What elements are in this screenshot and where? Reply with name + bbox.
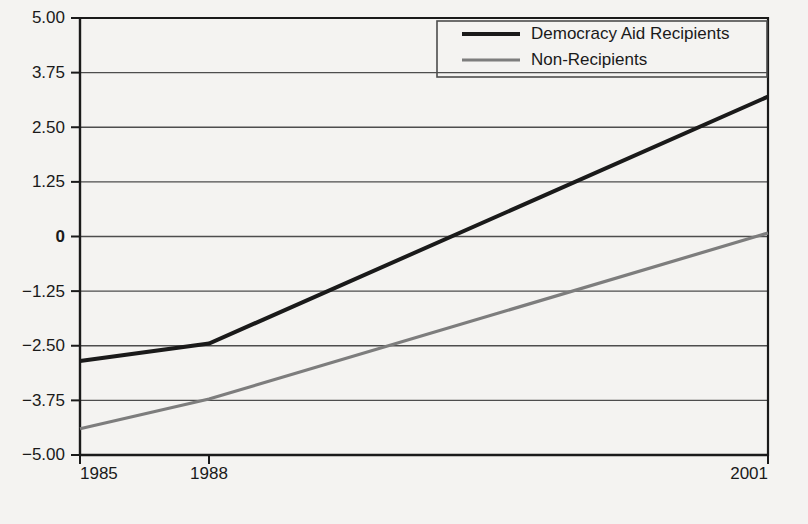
chart-background xyxy=(0,0,808,524)
x-axis-tick-label: 1988 xyxy=(190,464,228,483)
x-axis-tick-label: 2001 xyxy=(730,464,768,483)
chart-container: 5.003.752.501.250−1.25−2.50−3.75−5.00 19… xyxy=(0,0,808,524)
y-axis-tick-label: −1.25 xyxy=(22,282,65,301)
y-axis-tick-label: −5.00 xyxy=(22,445,65,464)
legend-label: Non-Recipients xyxy=(531,50,647,69)
y-axis-tick-label: 0 xyxy=(56,227,65,246)
y-axis-tick-label: 3.75 xyxy=(32,63,65,82)
line-chart: 5.003.752.501.250−1.25−2.50−3.75−5.00 19… xyxy=(0,0,808,524)
legend-label: Democracy Aid Recipients xyxy=(531,24,729,43)
y-axis-tick-label: 1.25 xyxy=(32,172,65,191)
y-axis-tick-label: −2.50 xyxy=(22,336,65,355)
y-axis-tick-label: −3.75 xyxy=(22,391,65,410)
y-axis-tick-label: 2.50 xyxy=(32,118,65,137)
x-axis-tick-label: 1985 xyxy=(80,464,118,483)
y-axis-tick-label: 5.00 xyxy=(32,8,65,27)
